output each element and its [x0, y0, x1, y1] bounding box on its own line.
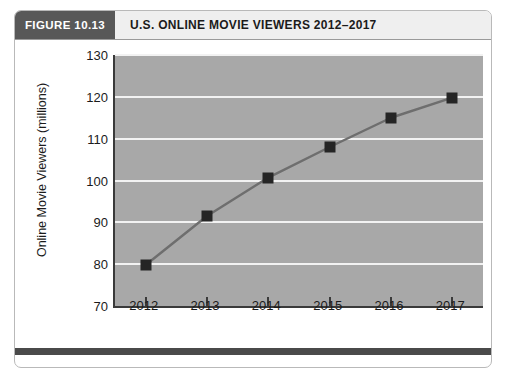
figure-container: FIGURE 10.13 U.S. ONLINE MOVIE VIEWERS 2… [14, 10, 492, 368]
y-axis-tick-label: 110 [87, 131, 108, 146]
x-axis-tick-label: 2013 [191, 298, 220, 313]
y-axis-title: Online Movie Viewers (millions) [35, 55, 49, 285]
y-axis-tick-label: 130 [86, 48, 108, 63]
y-axis-tick-label: 90 [94, 215, 108, 230]
data-point-marker [202, 211, 213, 222]
data-point-marker [263, 172, 274, 183]
series-line [115, 55, 483, 306]
y-axis-tick-label: 120 [86, 89, 108, 104]
x-axis-tick-label: 2012 [129, 298, 158, 313]
x-axis-tick-label: 2014 [252, 298, 281, 313]
figure-title: U.S. ONLINE MOVIE VIEWERS 2012–2017 [130, 18, 377, 32]
plot-area: 708090100110120130 [113, 55, 483, 308]
chart-body: Online Movie Viewers (millions) 70809010… [15, 41, 491, 351]
y-axis-tick-label: 70 [94, 299, 108, 314]
footer-rule [15, 348, 491, 355]
x-axis-tick-label: 2016 [375, 298, 404, 313]
y-axis-tick-label: 80 [94, 257, 108, 272]
data-point-marker [140, 260, 151, 271]
figure-number-badge: FIGURE 10.13 [15, 11, 115, 39]
y-axis-tick-label: 100 [86, 173, 108, 188]
figure-number-label: FIGURE 10.13 [25, 19, 105, 31]
figure-title-bar: U.S. ONLINE MOVIE VIEWERS 2012–2017 [115, 11, 491, 39]
data-point-marker [324, 142, 335, 153]
figure-header: FIGURE 10.13 U.S. ONLINE MOVIE VIEWERS 2… [15, 11, 491, 40]
x-axis-tick-label: 2015 [313, 298, 342, 313]
x-axis-tick-label: 2017 [436, 298, 465, 313]
data-point-marker [447, 92, 458, 103]
data-point-marker [386, 112, 397, 123]
